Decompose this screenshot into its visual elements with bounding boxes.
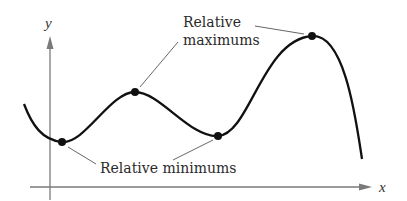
relative-maximum-2-point bbox=[308, 32, 316, 40]
x-axis-arrow-icon bbox=[359, 184, 372, 191]
minimums-label: Relative minimums bbox=[100, 160, 236, 176]
relative-minimum-2-point bbox=[214, 132, 222, 140]
x-axis-label: x bbox=[378, 179, 386, 195]
function-curve bbox=[24, 36, 362, 159]
leader-line-max-2 bbox=[255, 26, 304, 34]
y-axis-label: y bbox=[43, 15, 52, 31]
leader-line-min-1 bbox=[68, 147, 96, 164]
leader-line-max-1 bbox=[140, 42, 178, 87]
maximums-label-line2: maximums bbox=[183, 32, 260, 48]
maximums-label-line1: Relative bbox=[183, 14, 241, 30]
y-axis-arrow-icon bbox=[47, 36, 54, 49]
extrema-diagram: y x Relative maximums Relative minimums bbox=[0, 0, 407, 201]
relative-minimum-1-point bbox=[58, 138, 66, 146]
leader-line-min-2 bbox=[173, 140, 213, 160]
extrema-points bbox=[58, 32, 316, 146]
diagram-svg: y x Relative maximums Relative minimums bbox=[0, 0, 407, 201]
relative-maximum-1-point bbox=[131, 88, 139, 96]
